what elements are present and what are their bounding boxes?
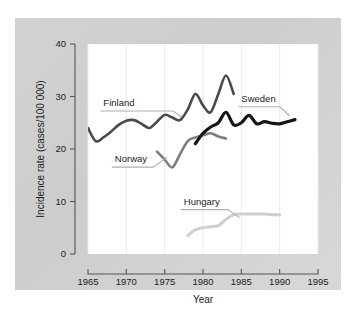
x-axis-tick-label: 1995 [307,276,328,287]
y-axis-tick-label: 40 [55,38,66,49]
series-label-sweden: Sweden [241,93,275,104]
series-label-norway: Norway [115,153,147,164]
line-chart: 0102030401965197019751980198519901995Yea… [0,0,357,310]
y-axis-tick-label: 0 [61,248,66,259]
series-label-hungary: Hungary [184,196,220,207]
x-axis-title: Year [193,294,214,305]
x-axis-tick-label: 1975 [154,276,175,287]
y-axis-tick-label: 30 [55,91,66,102]
x-axis-tick-label: 1985 [231,276,252,287]
x-axis-tick-label: 1970 [116,276,137,287]
y-axis-title: Incidence rate (cases/100 000) [35,80,46,217]
y-axis-tick-label: 10 [55,196,66,207]
y-axis-tick-label: 20 [55,143,66,154]
figure: 0102030401965197019751980198519901995Yea… [0,0,357,310]
series-label-finland: Finland [103,97,134,108]
x-axis-tick-label: 1990 [269,276,290,287]
x-axis-tick-label: 1980 [192,276,213,287]
x-axis-tick-label: 1965 [77,276,98,287]
